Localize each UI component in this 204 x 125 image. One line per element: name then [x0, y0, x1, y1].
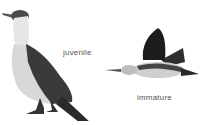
immature-label: immature: [137, 93, 172, 102]
juvenile-bird-image: [0, 6, 100, 121]
immature-bird-image: [103, 26, 203, 86]
illustration: juvenile immature: [0, 0, 204, 125]
juvenile-label: juvenile: [63, 48, 92, 57]
